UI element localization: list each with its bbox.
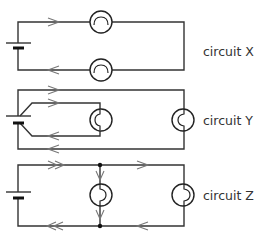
battery-icon [6, 43, 31, 48]
bulb-icon [172, 184, 194, 206]
bulb-icon [90, 11, 112, 33]
bulb-icon [90, 59, 112, 81]
circuit-x [6, 11, 184, 81]
bulb-icon [172, 109, 194, 131]
bulb-icon [90, 184, 112, 206]
bulb-icon [90, 109, 112, 131]
circuit-z-label: circuit Z [203, 188, 254, 203]
junction-dot [98, 224, 102, 228]
circuit-y-label: circuit Y [203, 113, 253, 128]
circuit-y [6, 86, 194, 153]
battery-icon [6, 116, 31, 123]
circuit-z [6, 161, 194, 230]
circuit-x-label: circuit X [203, 44, 254, 59]
junction-dot [98, 163, 102, 167]
battery-icon [6, 192, 31, 198]
